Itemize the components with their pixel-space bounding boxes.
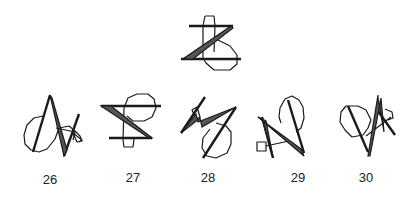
option-figure-30 [340,95,395,156]
option-label-26: 26 [43,172,57,187]
option-label-30: 30 [359,170,373,185]
reference-figure [181,16,241,70]
option-figure-28 [181,97,236,158]
option-label-27: 27 [126,170,140,185]
option-label-29: 29 [291,170,305,185]
option-label-28: 28 [201,170,215,185]
option-figure-27 [101,94,161,147]
option-figure-29 [257,96,304,158]
option-figure-26 [24,95,82,156]
